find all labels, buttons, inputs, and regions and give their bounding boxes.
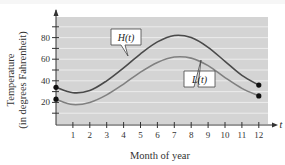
x-tick-label: 4 [121, 130, 126, 140]
x-axis-variable: t [280, 119, 283, 130]
endpoint-marker [256, 83, 261, 88]
x-tick-label: 12 [254, 130, 263, 140]
x-tick-label: 9 [206, 130, 211, 140]
endpoint-marker [53, 97, 58, 102]
endpoint-marker [256, 93, 261, 98]
x-tick-label: 1 [71, 130, 76, 140]
x-tick-label: 5 [138, 130, 143, 140]
svg-text:H(t): H(t) [117, 32, 135, 44]
y-tick-label: 20 [41, 97, 51, 107]
y-axis-label: Temperature (in degrees Fahrenheit) [5, 31, 29, 129]
x-tick-label: 3 [104, 130, 109, 140]
x-axis-label: Month of year [130, 150, 191, 161]
x-tick-label: 8 [189, 130, 194, 140]
x-tick-label: 7 [172, 130, 177, 140]
y-axis-label-line1: Temperature [5, 53, 16, 106]
x-tick-label: 2 [88, 130, 93, 140]
x-tick-label: 6 [155, 130, 160, 140]
endpoint-marker [53, 85, 58, 90]
y-tick-label: 60 [41, 54, 51, 64]
x-tick-label: 11 [238, 130, 247, 140]
temperature-chart: 123456789101112 20406080 H(t)L(t) Month … [0, 0, 285, 165]
y-tick-label: 80 [41, 33, 51, 43]
y-tick-label: 40 [41, 76, 51, 86]
cropped-caption-strip [0, 0, 285, 4]
x-tick-label: 10 [221, 130, 231, 140]
svg-text:L(t): L(t) [191, 74, 208, 86]
y-axis-label-line2: (in degrees Fahrenheit) [17, 31, 29, 129]
